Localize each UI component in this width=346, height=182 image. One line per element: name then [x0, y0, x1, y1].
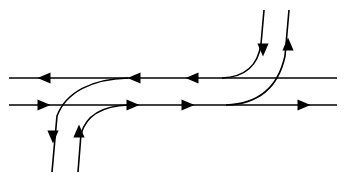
branch-lower-left-ascending: [78, 105, 128, 172]
arrow-right-lower-horizontal-line-3: [182, 99, 195, 110]
flow-diagram-canvas: [0, 0, 346, 182]
arrow-left-upper-horizontal-line-1: [38, 72, 51, 83]
flow-diagram: [0, 0, 346, 182]
branch-upper-left-descending: [52, 78, 128, 172]
arrow-left-upper-horizontal-line-2: [128, 72, 141, 83]
arrow-right-lower-horizontal-line-4: [298, 99, 311, 110]
arrow-left-upper-horizontal-line-3: [186, 72, 199, 83]
arrow-up-branch-lower-left-ascending-1: [73, 125, 84, 138]
arrow-up-branch-lower-right-ascending-1: [282, 38, 293, 51]
arrow-right-lower-horizontal-line-2: [127, 99, 140, 110]
arrow-down-branch-upper-left-descending-1: [47, 131, 58, 144]
arrow-right-lower-horizontal-line-1: [38, 99, 51, 110]
